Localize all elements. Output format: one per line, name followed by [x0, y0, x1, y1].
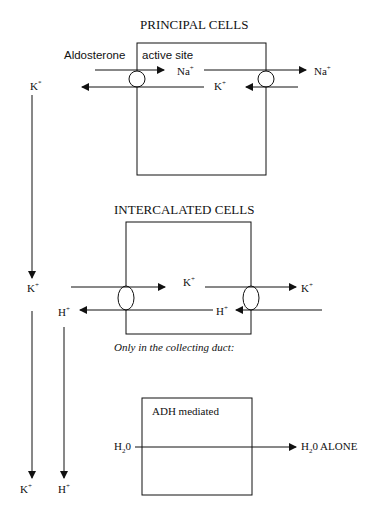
principal-channel-left — [129, 71, 145, 87]
h2o-in-label: H20 — [114, 441, 131, 455]
active-site-label: active site — [142, 50, 193, 62]
intercalated-cells-title: INTERCALATED CELLS — [114, 203, 254, 216]
intercalated-channel-right — [243, 286, 259, 310]
h-mid-label: H+ — [216, 306, 228, 317]
k-principal-label: K+ — [214, 81, 226, 92]
k-left-label: K* — [30, 81, 41, 92]
adh-label: ADH mediated — [152, 406, 219, 417]
principal-channel-right — [258, 71, 274, 87]
principal-cells-title: PRINCIPAL CELLS — [140, 18, 248, 31]
aldosterone-label: Aldosterone — [64, 50, 125, 62]
h-bottom-label: H+ — [58, 484, 70, 495]
na-inner-label: Na+ — [177, 66, 194, 77]
k-bottom-label: K+ — [20, 484, 32, 495]
h2o-alone-label: H20 ALONE — [301, 441, 357, 455]
k-mid-intercalated-label: K+ — [183, 277, 195, 288]
k-left-intercalated-label: K+ — [27, 283, 39, 294]
intercalated-channel-left — [118, 286, 134, 310]
h-left-label: H+ — [58, 307, 70, 318]
collecting-duct-note: Only in the collecting duct: — [114, 342, 234, 353]
principal-cell-box — [137, 43, 266, 175]
na-outer-label: Na+ — [314, 66, 331, 77]
k-right-intercalated-label: K+ — [301, 283, 313, 294]
